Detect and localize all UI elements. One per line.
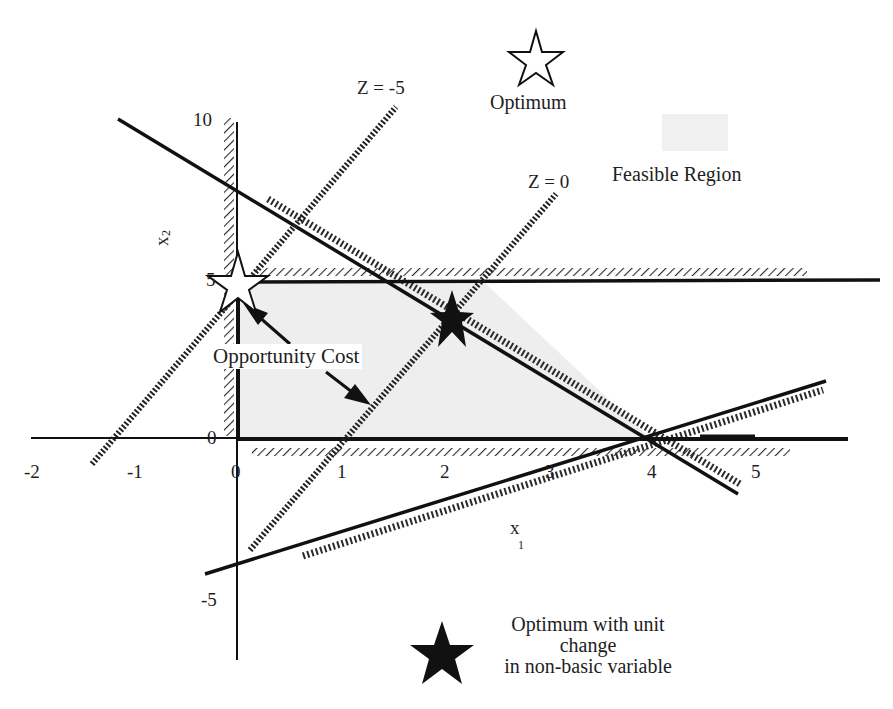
x2-axis-label-subscript: 2 [160,230,172,236]
x1-axis-label-subscript: 1 [518,539,524,551]
x-tick-4: 4 [647,462,657,481]
z-0-label: Z = 0 [528,172,569,191]
hatch-x2-upper [255,268,807,276]
x2-axis-label-main: x [151,237,172,247]
lp-diagram [0,0,893,709]
y-tick-5: 5 [206,270,216,289]
x-tick-3: 3 [545,462,555,481]
x-tick-1: 1 [337,462,347,481]
x-tick-neg2: -2 [24,462,40,481]
opportunity-cost-label: Opportunity Cost [210,344,362,369]
legend-unit-change-star-icon [410,621,474,684]
x-tick-2: 2 [440,462,450,481]
constraint-x2-upper [238,280,880,282]
legend-feasible-region-label: Feasible Region [612,164,741,184]
legend-unit-change-line2: change [478,635,698,656]
legend-unit-change-line1: Optimum with unit [478,614,698,635]
y-tick-10: 10 [193,110,212,129]
x1-axis-label: x 1 [510,518,520,537]
legend-unit-change-label: Optimum with unit change in non-basic va… [478,614,698,677]
legend-unit-change-line3: in non-basic variable [478,656,698,677]
x-tick-0: 0 [231,462,241,481]
x1-axis-label-main: x [510,517,520,538]
x-tick-5: 5 [751,462,761,481]
legend-feasible-swatch [662,114,728,151]
x-tick-neg1: -1 [127,462,143,481]
x2-axis-label: x 2 [152,237,171,247]
y-tick-0: 0 [207,428,217,447]
legend-optimum-star-icon [509,31,563,85]
z-neg5-label: Z = -5 [357,78,405,97]
y-tick-neg5: -5 [201,590,217,609]
legend-optimum-label: Optimum [490,92,567,112]
